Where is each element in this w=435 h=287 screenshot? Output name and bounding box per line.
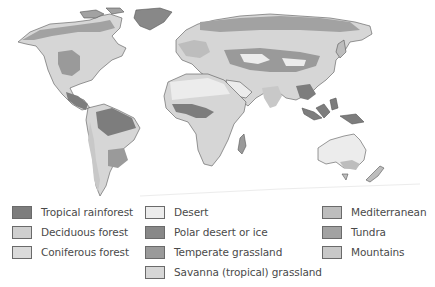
greenland — [134, 8, 172, 30]
legend-item-mediterranean: Mediterranean — [322, 204, 426, 220]
swatch-deciduous-forest — [12, 226, 32, 239]
legend-item-mountains: Mountains — [322, 244, 405, 260]
legend-item-temperate-grassland: Temperate grassland — [145, 244, 282, 260]
legend-item-deciduous-forest: Deciduous forest — [12, 224, 128, 240]
swatch-coniferous-forest — [12, 246, 32, 259]
legend-item-polar-desert: Polar desert or ice — [145, 224, 268, 240]
legend-item-savanna: Savanna (tropical) grassland — [145, 264, 322, 280]
swatch-mediterranean — [322, 206, 342, 219]
legend-item-desert: Desert — [145, 204, 208, 220]
swatch-tundra — [322, 226, 342, 239]
swatch-tropical-rainforest — [12, 206, 32, 219]
legend-item-tundra: Tundra — [322, 224, 386, 240]
swatch-desert — [145, 206, 165, 219]
legend-item-coniferous-forest: Coniferous forest — [12, 244, 129, 260]
swatch-polar-desert — [145, 226, 165, 239]
world-biome-map — [0, 0, 435, 200]
swatch-savanna — [145, 266, 165, 279]
swatch-temperate-grassland — [145, 246, 165, 259]
legend-item-tropical-rainforest: Tropical rainforest — [12, 204, 133, 220]
legend: Tropical rainforest Deciduous forest Con… — [0, 200, 435, 287]
swatch-mountains — [322, 246, 342, 259]
